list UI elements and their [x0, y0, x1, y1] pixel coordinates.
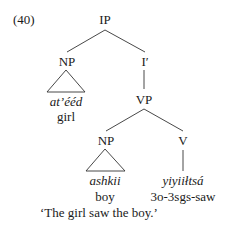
- node-ip: IP: [99, 13, 111, 27]
- verb-gloss: 3o-3sgs-saw: [151, 190, 216, 204]
- subject-word: at’ééd: [50, 95, 82, 109]
- example-number: (40): [13, 13, 35, 27]
- edge-vp-np: [106, 109, 144, 131]
- node-vp: VP: [136, 93, 153, 107]
- triangle-subject-np: [47, 70, 85, 92]
- triangle-object-np: [86, 149, 125, 171]
- subject-gloss: girl: [57, 110, 75, 124]
- object-gloss: boy: [95, 190, 115, 204]
- edge-vp-v: [144, 109, 183, 131]
- node-object-np: NP: [98, 134, 115, 148]
- node-i-bar: I′: [141, 55, 148, 69]
- translation: ‘The girl saw the boy.’: [40, 206, 158, 220]
- edge-ip-np: [67, 30, 105, 52]
- node-subject-np: NP: [59, 55, 76, 69]
- object-word: ashkii: [89, 174, 120, 188]
- verb-word: yiyiiłtsá: [162, 174, 203, 188]
- node-v: V: [178, 134, 187, 148]
- edge-ip-ibar: [105, 30, 145, 52]
